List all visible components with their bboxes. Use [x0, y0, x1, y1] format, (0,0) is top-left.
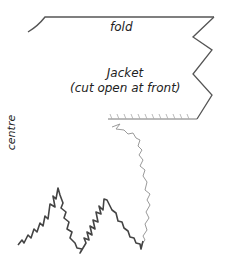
right-zigzag-edge — [193, 17, 214, 119]
lower-zigzag-edge — [18, 188, 143, 253]
hem-hatching — [110, 114, 189, 119]
centre-label: centre — [5, 115, 18, 150]
fold-label: fold — [110, 20, 133, 34]
torn-edge-right — [112, 124, 150, 245]
jacket-title: Jacket — [70, 66, 180, 81]
jacket-diagram — [0, 0, 228, 269]
jacket-label: Jacket (cut open at front) — [70, 66, 180, 96]
jacket-subtitle: (cut open at front) — [70, 81, 180, 96]
